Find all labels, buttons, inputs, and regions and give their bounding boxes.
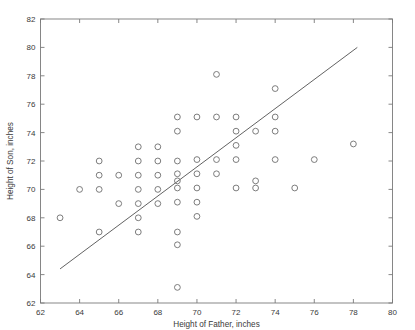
x-tick-label: 72: [232, 308, 241, 317]
data-point: [194, 171, 200, 177]
y-tick-label: 66: [27, 242, 36, 251]
data-point: [174, 128, 180, 134]
x-tick-label: 68: [153, 308, 162, 317]
data-point: [77, 187, 83, 193]
data-point: [174, 284, 180, 290]
x-tick-label: 64: [75, 308, 84, 317]
data-point: [253, 128, 259, 134]
data-point: [116, 172, 122, 178]
data-point: [135, 187, 141, 193]
x-tick-label: 74: [271, 308, 280, 317]
y-tick-label: 80: [27, 43, 36, 52]
data-point: [174, 199, 180, 205]
data-point: [194, 199, 200, 205]
x-tick-label: 66: [114, 308, 123, 317]
y-tick-label: 72: [27, 157, 36, 166]
x-tick-label: 62: [36, 308, 45, 317]
data-point: [174, 171, 180, 177]
data-point: [253, 185, 259, 191]
y-tick-label: 62: [27, 299, 36, 308]
y-tick-label: 74: [27, 129, 36, 138]
x-tick-label: 80: [388, 308, 397, 317]
data-point: [253, 178, 259, 184]
data-point: [135, 215, 141, 221]
y-tick-label: 68: [27, 214, 36, 223]
data-point: [155, 144, 161, 150]
data-point: [174, 178, 180, 184]
data-point: [174, 114, 180, 120]
data-point: [194, 114, 200, 120]
data-point: [135, 172, 141, 178]
data-point: [135, 158, 141, 164]
y-tick-label: 70: [27, 185, 36, 194]
data-point: [272, 157, 278, 163]
data-point: [174, 185, 180, 191]
data-point: [233, 114, 239, 120]
data-point: [135, 229, 141, 235]
regression-line: [60, 47, 357, 269]
plot-canvas: 6264666870727476788062646668707274767880…: [0, 0, 415, 330]
data-point: [272, 128, 278, 134]
data-point: [155, 201, 161, 207]
y-tick-label: 76: [27, 100, 36, 109]
data-point: [214, 157, 220, 163]
data-point: [194, 213, 200, 219]
data-point: [96, 187, 102, 193]
data-point: [135, 201, 141, 207]
data-point: [350, 141, 356, 147]
data-point: [214, 114, 220, 120]
data-point: [96, 229, 102, 235]
data-point: [194, 185, 200, 191]
x-tick-label: 70: [192, 308, 201, 317]
data-point: [233, 185, 239, 191]
data-point: [155, 158, 161, 164]
data-point: [155, 172, 161, 178]
data-point: [272, 86, 278, 92]
data-point: [214, 71, 220, 77]
data-point: [292, 185, 298, 191]
data-point: [194, 157, 200, 163]
data-point: [233, 157, 239, 163]
data-point: [135, 144, 141, 150]
y-axis-label: Height of Son, inches: [6, 122, 15, 200]
y-tick-label: 82: [27, 15, 36, 24]
data-point: [214, 171, 220, 177]
x-axis-label: Height of Father, inches: [173, 320, 259, 329]
data-point: [96, 172, 102, 178]
data-point: [272, 114, 278, 120]
plot-frame: [41, 19, 393, 303]
scatter-plot-figure: 6264666870727476788062646668707274767880…: [0, 0, 415, 330]
data-point: [311, 157, 317, 163]
y-tick-label: 64: [27, 271, 36, 280]
data-point: [174, 229, 180, 235]
data-point: [174, 242, 180, 248]
data-point: [155, 187, 161, 193]
data-point: [174, 158, 180, 164]
data-point: [116, 201, 122, 207]
data-point: [96, 158, 102, 164]
x-tick-label: 78: [349, 308, 358, 317]
data-point: [233, 128, 239, 134]
data-point: [57, 215, 63, 221]
x-tick-label: 76: [310, 308, 319, 317]
data-point: [233, 142, 239, 148]
y-tick-label: 78: [27, 72, 36, 81]
